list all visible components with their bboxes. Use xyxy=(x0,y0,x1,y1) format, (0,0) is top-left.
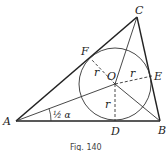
label-half-alpha: ½ α xyxy=(53,110,71,120)
incircle-diagram: A B C F O E D r r r ½ α Fig. 140 xyxy=(0,0,166,151)
label-C: C xyxy=(135,4,144,17)
label-r-OF: r xyxy=(94,66,100,79)
label-B: B xyxy=(157,124,166,137)
label-D: D xyxy=(110,125,120,138)
side-AC xyxy=(16,17,137,121)
label-A: A xyxy=(2,115,11,128)
label-E: E xyxy=(153,70,162,83)
figure-caption: Fig. 140 xyxy=(70,143,102,151)
label-O: O xyxy=(107,70,116,83)
label-F: F xyxy=(80,45,89,58)
label-r-OD: r xyxy=(105,98,111,111)
label-r-OE: r xyxy=(130,67,136,80)
angle-arc-A xyxy=(49,109,51,122)
